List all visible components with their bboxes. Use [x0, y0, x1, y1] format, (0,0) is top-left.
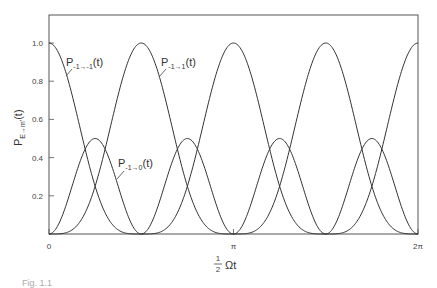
- svg-text:2: 2: [216, 265, 221, 274]
- label-p-minus1-to-1: P-1→1(t): [159, 56, 196, 77]
- x-axis-label: 1 2 Ωt: [214, 254, 236, 274]
- y-tick-label: 0.6: [32, 115, 44, 124]
- y-tick-label: 0.4: [32, 154, 44, 163]
- svg-text:P-1→1(t): P-1→1(t): [161, 56, 196, 70]
- svg-text:1: 1: [216, 254, 221, 263]
- curve-0: [49, 43, 418, 234]
- y-tick-label: 1.0: [32, 39, 44, 48]
- y-axis-label: PE→m'(t): [12, 109, 26, 146]
- y-tick-label: 0.2: [32, 192, 44, 201]
- y-tick-label: 0.8: [32, 77, 44, 86]
- y-axis-ticks: 0.20.40.60.81.0: [32, 39, 54, 201]
- x-tick-label: π: [231, 242, 237, 251]
- curves: [49, 43, 418, 234]
- x-tick-label: 2π: [413, 242, 423, 251]
- label-p-minus1-to-minus1: P-1→-1(t): [66, 56, 103, 76]
- x-tick-label: 0: [47, 242, 52, 251]
- plot-frame: [49, 15, 418, 234]
- svg-text:PE→m'(t): PE→m'(t): [12, 109, 26, 146]
- svg-text:P-1→0(t): P-1→0(t): [118, 157, 153, 171]
- curve-1: [49, 43, 418, 234]
- svg-text:Ωt: Ωt: [225, 259, 236, 271]
- figure-caption: Fig. 1.1: [22, 278, 52, 288]
- x-axis-ticks: 0π2π: [47, 229, 424, 251]
- svg-text:P-1→-1(t): P-1→-1(t): [66, 56, 103, 70]
- label-p-minus1-to-0: P-1→0(t): [117, 157, 153, 179]
